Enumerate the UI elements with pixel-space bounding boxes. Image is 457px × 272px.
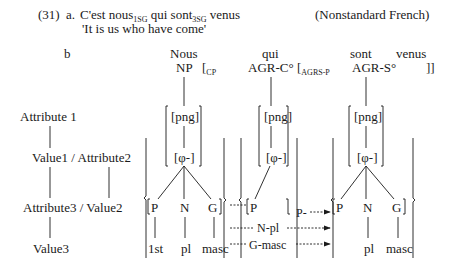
tree-lines: [0, 0, 457, 272]
